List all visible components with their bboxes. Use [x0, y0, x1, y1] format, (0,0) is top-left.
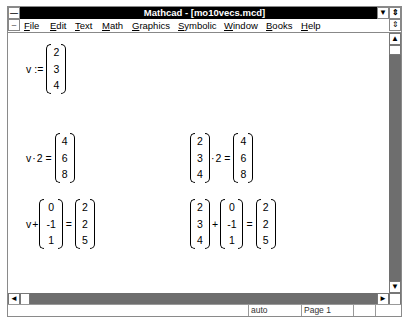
system-menu-icon[interactable]: — — [8, 7, 20, 19]
status-mode: auto — [248, 305, 301, 316]
vector: 234 — [190, 133, 210, 183]
var-v: v — [26, 218, 31, 230]
status-page: Page 1 — [301, 305, 353, 316]
menu-math[interactable]: Math — [102, 19, 123, 32]
literal-scalar-mult-expression[interactable]: 234 · 2 = 468 — [190, 133, 253, 183]
menu-help[interactable]: Help — [301, 19, 321, 32]
result-vector: 225 — [75, 199, 95, 249]
window-title: Mathcad - [mo10vecs.mcd] — [144, 7, 265, 18]
restore-icon[interactable]: ⇕ — [389, 7, 401, 19]
vertical-scrollbar[interactable]: ▲ ▼ — [389, 33, 401, 293]
plus-operator: + — [32, 218, 38, 230]
equals: = — [224, 152, 230, 164]
scalar: 2 — [216, 152, 222, 164]
scroll-down-icon[interactable]: ▼ — [389, 281, 401, 293]
status-cell-4 — [375, 305, 401, 316]
mathcad-window: — Mathcad - [mo10vecs.mcd] ▼ ⇕ – File Ed… — [7, 6, 402, 317]
worksheet[interactable]: v := 234 v · 2 = 468 234 — [8, 33, 389, 293]
addend-vector: 0-11 — [220, 199, 243, 249]
equals: = — [246, 218, 252, 230]
title-bar[interactable]: — Mathcad - [mo10vecs.mcd] ▼ ⇕ — [8, 7, 401, 19]
status-cell-3 — [353, 305, 375, 316]
scalar-mult-expression[interactable]: v · 2 = 468 — [26, 133, 75, 183]
vector-add-expression[interactable]: v + 0-11 = 225 — [26, 199, 95, 249]
var-v: v — [26, 63, 31, 75]
equals: = — [66, 218, 72, 230]
vertical-scroll-thumb[interactable] — [389, 45, 401, 55]
doc-restore-icon[interactable]: ⇕ — [389, 19, 401, 31]
scalar: 2 — [37, 152, 43, 164]
multiply-operator: · — [211, 152, 215, 164]
menu-window[interactable]: Window — [224, 19, 258, 32]
var-v: v — [26, 152, 31, 164]
menu-edit[interactable]: Edit — [50, 19, 66, 32]
multiply-operator: · — [32, 152, 36, 164]
menu-graphics[interactable]: Graphics — [132, 19, 170, 32]
result-vector: 468 — [55, 133, 75, 183]
equals: = — [46, 152, 52, 164]
menu-file[interactable]: File — [24, 19, 39, 32]
doc-system-menu-icon[interactable]: – — [8, 19, 20, 31]
result-vector: 468 — [233, 133, 253, 183]
menu-text[interactable]: Text — [75, 19, 92, 32]
menu-symbolic[interactable]: Symbolic — [178, 19, 217, 32]
result-vector: 225 — [256, 199, 276, 249]
scroll-up-icon[interactable]: ▲ — [389, 33, 401, 45]
vector: 234 — [46, 44, 66, 94]
addend-vector: 0-11 — [39, 199, 62, 249]
menu-books[interactable]: Books — [266, 19, 292, 32]
menu-bar: – File Edit Text Math Graphics Symbolic … — [8, 19, 401, 33]
vector-definition[interactable]: v := 234 — [26, 44, 66, 94]
literal-vector-add-expression[interactable]: 234 + 0-11 = 225 — [190, 199, 276, 249]
define-operator: := — [34, 63, 43, 75]
plus-operator: + — [212, 218, 218, 230]
status-bar: auto Page 1 — [8, 304, 401, 316]
vector: 234 — [190, 199, 210, 249]
minimize-icon[interactable]: ▼ — [377, 7, 389, 19]
